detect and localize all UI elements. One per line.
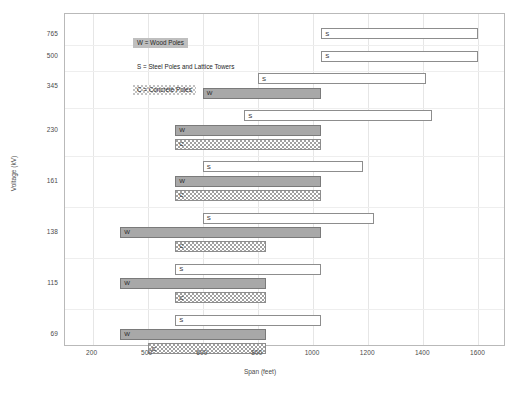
bar-230kv-S: S [244,110,431,121]
x-axis-title: Span (feet) [0,368,520,375]
bar-label: S [322,53,329,59]
gridline-horizontal [65,45,504,46]
y-tick-label: 161 [28,177,58,184]
gridline-horizontal [65,207,504,208]
bar-label: W [176,127,185,133]
x-tick-label: 1400 [415,349,430,356]
bar-label: S [176,266,183,272]
bar-500kv-S: S [321,51,478,62]
bar-765kv-S: S [321,28,478,39]
y-tick-label: 500 [28,52,58,59]
bar-label: W [121,280,130,286]
gridline-vertical [368,14,369,345]
bar-label: C [176,192,183,198]
bar-label: S [259,76,266,82]
plot-area: SSSWSWCSWCSWCSWCSWC W = Wood PolesS = St… [64,13,505,346]
bar-label: W [121,331,130,337]
bar-138kv-S: S [203,213,374,224]
legend-item-w: W = Wood Poles [133,38,188,48]
gridline-vertical [93,14,94,345]
bar-230kv-W: W [175,125,321,136]
gridline-horizontal [65,108,504,109]
bar-161kv-C: C [175,190,321,201]
bar-label: C [176,295,183,301]
x-tick-label: 600 [196,349,207,356]
bar-345kv-S: S [258,73,426,84]
bar-label: W [176,178,185,184]
bar-230kv-C: C [175,139,321,150]
bar-label: S [245,113,252,119]
bar-label: C [176,243,183,249]
gridline-horizontal [65,71,504,72]
bar-138kv-C: C [175,241,266,252]
y-tick-label: 765 [28,29,58,36]
y-axis-title: Voltage (kV) [10,139,17,209]
x-tick-label: 1600 [470,349,485,356]
bar-161kv-S: S [203,161,363,172]
bar-label: S [204,164,211,170]
bar-115kv-W: W [120,278,266,289]
gridline-horizontal [65,309,504,310]
x-tick-label: 800 [251,349,262,356]
chart-legend: W = Wood PolesS = Steel Poles and Lattic… [133,31,238,102]
y-tick-label: 345 [28,82,58,89]
bar-161kv-W: W [175,176,321,187]
bar-69kv-S: S [175,315,321,326]
span-vs-voltage-chart: Voltage (kV) SSSWSWCSWCSWCSWCSWC W = Woo… [0,0,520,393]
legend-item-c: C = Concrete Poles [133,85,196,95]
gridline-vertical [423,14,424,345]
x-tick-label: 200 [86,349,97,356]
gridline-vertical [478,14,479,345]
bar-label: S [322,31,329,37]
y-tick-label: 69 [28,330,58,337]
bar-115kv-S: S [175,264,321,275]
x-tick-label: 1000 [305,349,320,356]
gridline-horizontal [65,156,504,157]
y-tick-label: 138 [28,228,58,235]
y-tick-label: 115 [28,279,58,286]
x-tick-label: 1200 [360,349,375,356]
bar-69kv-W: W [120,329,266,340]
legend-item-s: S = Steel Poles and Lattice Towers [133,61,238,71]
bar-138kv-W: W [120,227,321,238]
bar-label: C [176,141,183,147]
bar-115kv-C: C [175,292,266,303]
y-tick-label: 230 [28,126,58,133]
bar-label: S [204,215,211,221]
bar-label: W [121,229,130,235]
bar-label: C [149,346,156,352]
bar-label: S [176,317,183,323]
gridline-horizontal [65,258,504,259]
